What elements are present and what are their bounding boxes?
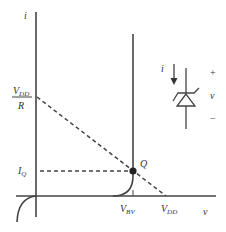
symbol-plus: +	[210, 67, 216, 78]
q-point-label: Q	[140, 158, 148, 169]
breakdown-knee-curve	[113, 176, 133, 196]
q-operating-point	[129, 167, 136, 174]
load-line	[37, 97, 166, 196]
symbol-current-label: i	[161, 63, 164, 74]
zener-load-line-diagram: i v VDD R IQ Q VBV VDD i + v −	[0, 0, 226, 232]
vdd-label: VDD	[161, 203, 177, 216]
symbol-minus: −	[210, 113, 216, 124]
iq-label: IQ	[17, 165, 26, 178]
i-axis-label: i	[24, 10, 27, 21]
vdd-r-numerator: VDD	[13, 85, 29, 98]
vdd-r-denominator: R	[17, 100, 24, 111]
zener-diode-symbol	[171, 64, 200, 129]
zener-triangle	[177, 94, 195, 106]
forward-curve	[17, 196, 36, 222]
current-arrow-icon	[171, 78, 178, 85]
symbol-voltage-label: v	[210, 90, 215, 101]
vbv-label: VBV	[120, 203, 135, 216]
v-axis-label: v	[203, 206, 208, 217]
